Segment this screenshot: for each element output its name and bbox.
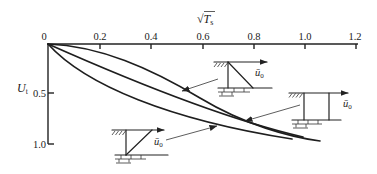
callout-arrow [182, 79, 218, 91]
inset-uniform: ū0 [245, 93, 352, 128]
x-tick-label: 0.8 [247, 31, 260, 42]
x-axis: √Ts 0 0.2 0.4 0.6 0.8 1.0 1.2 [41, 12, 361, 50]
inset-triangle-max-at-top: ū0 [112, 126, 217, 163]
curve-middle [48, 44, 303, 137]
displacement-profile [228, 62, 253, 88]
inset-label: ū0 [154, 136, 163, 149]
x-axis-sub: s [210, 18, 213, 27]
inset-label: ū0 [255, 67, 264, 80]
x-tick-label: 0.6 [196, 31, 209, 42]
y-tick-labels: 0.5 1.0 [33, 88, 46, 150]
inset-triangle-max-at-base: ū0 [182, 62, 272, 96]
y-tick-label: 1.0 [33, 139, 46, 150]
ground-hatch-icon [112, 131, 126, 135]
inset-label: ū0 [343, 98, 352, 111]
foundation-icon [115, 155, 146, 163]
curve-upper [48, 44, 320, 141]
x-tick-label: 0.4 [144, 31, 158, 42]
x-axis-label: √Ts [197, 12, 213, 27]
displacement-profile [126, 130, 152, 155]
callout-arrow [166, 126, 217, 140]
ground-hatch-icon [289, 94, 303, 98]
y-axis-label: Ut [17, 81, 29, 96]
curves [48, 44, 320, 141]
foundation-icon [292, 120, 322, 128]
x-tick-label: 1.2 [348, 31, 361, 42]
x-tick-label: 0.2 [93, 31, 106, 42]
x-tick-label: 0 [41, 31, 46, 42]
x-tick-labels: 0 0.2 0.4 0.6 0.8 1.0 1.2 [41, 31, 361, 42]
foundation-icon [218, 88, 250, 96]
y-axis: Ut 0.5 1.0 [17, 44, 54, 150]
y-tick-label: 0.5 [33, 88, 46, 99]
callout-arrow [245, 105, 300, 121]
chart-canvas: √Ts 0 0.2 0.4 0.6 0.8 1.0 1.2 Ut [0, 0, 377, 174]
ground-hatch-icon [214, 63, 228, 67]
figure: √Ts 0 0.2 0.4 0.6 0.8 1.0 1.2 Ut [0, 0, 377, 174]
x-ticks [100, 44, 356, 49]
x-tick-label: 1.0 [298, 31, 311, 42]
y-axis-sub: t [26, 87, 29, 96]
